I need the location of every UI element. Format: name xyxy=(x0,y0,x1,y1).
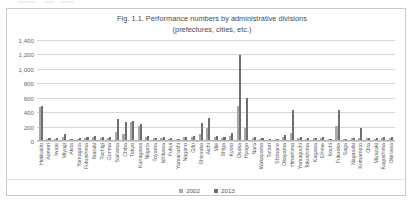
bar-group xyxy=(45,40,53,141)
plot-area: 1,4001,2001,0008006004002000 xyxy=(37,40,395,141)
bar-group xyxy=(250,40,258,141)
bar-group xyxy=(197,40,205,141)
bar xyxy=(201,123,203,141)
bar-group xyxy=(105,40,113,141)
chart-legend: 20022013 xyxy=(7,185,407,196)
legend-item[interactable]: 2002 xyxy=(179,187,200,194)
x-axis-tick-label: Kagawa xyxy=(312,143,318,162)
bar-group xyxy=(319,40,327,141)
x-axis-tick-label: Shimane xyxy=(274,143,280,164)
x-axis-tick-label: Ishikawa xyxy=(160,143,166,164)
bar xyxy=(41,106,43,141)
x-axis-tick-label: Tokushima xyxy=(304,143,310,168)
x-axis-tick-label: Kyoto xyxy=(228,143,234,157)
bar-group xyxy=(372,40,380,141)
bar-group xyxy=(90,40,98,141)
x-axis-tick-label: Oita xyxy=(365,143,371,153)
bar-group xyxy=(357,40,365,141)
x-axis-tick-label: Toyama xyxy=(152,143,158,162)
x-axis-tick-label: Osaka xyxy=(236,143,242,158)
chart-container: Fig. 1.1. Performance numbers by adminis… xyxy=(6,8,406,196)
legend-item[interactable]: 2013 xyxy=(214,187,235,194)
bar-group xyxy=(273,40,281,141)
bar xyxy=(292,110,294,141)
bar-group xyxy=(128,40,136,141)
x-axis-tick-label: Shizuoka xyxy=(198,143,204,165)
bar-group xyxy=(303,40,311,141)
bar-group xyxy=(136,40,144,141)
bar-group xyxy=(288,40,296,141)
y-axis-tick-label: 400 xyxy=(24,109,34,116)
bar-group xyxy=(189,40,197,141)
x-axis-tick-label: Miyagi xyxy=(61,143,67,158)
bar-group xyxy=(227,40,235,141)
y-axis-tick-label: 200 xyxy=(24,123,34,130)
bar-group xyxy=(204,40,212,141)
x-axis-tick-label: Tokyo xyxy=(129,143,135,157)
bar-group xyxy=(60,40,68,141)
x-axis-tick-label: Aomori xyxy=(45,143,51,160)
x-axis-tick-label: Ehime xyxy=(319,143,325,158)
x-axis-tick-label: Hokkaido xyxy=(38,143,44,165)
x-axis-tick-label: Gifu xyxy=(190,143,196,153)
x-axis-tick-label: Kumamoto xyxy=(357,143,363,169)
x-axis-tick-label: Kochi xyxy=(327,143,333,156)
x-axis-tick-label: Gunma xyxy=(106,143,112,160)
bar xyxy=(338,110,340,141)
legend-label: 2013 xyxy=(221,187,235,194)
x-axis-tick-label: Okinawa xyxy=(388,143,394,164)
x-axis-tick-label: Okayama xyxy=(281,143,287,166)
x-axis-tick-label: Nagano xyxy=(182,143,188,162)
bar-groups xyxy=(37,40,395,141)
y-axis-tick-label: 0 xyxy=(31,138,34,145)
bar-group xyxy=(212,40,220,141)
x-axis-tick-label: Saitama xyxy=(114,143,120,162)
x-axis-tick-label: Nara xyxy=(251,143,257,154)
y-axis-tick-label: 1,400 xyxy=(19,37,34,44)
bar-group xyxy=(326,40,334,141)
legend-divider xyxy=(7,179,407,180)
x-axis-tick-label: Aichi xyxy=(205,143,211,154)
legend-swatch-icon xyxy=(179,189,183,193)
bar-group xyxy=(265,40,273,141)
bar-group xyxy=(37,40,45,141)
bar-group xyxy=(98,40,106,141)
bar xyxy=(125,122,127,141)
x-axis-tick-label: Nagasaki xyxy=(350,143,356,165)
bar-group xyxy=(166,40,174,141)
x-axis-tick-label: Akita xyxy=(68,143,74,155)
chart-title: Fig. 1.1. Performance numbers by adminis… xyxy=(37,14,387,35)
bar-group xyxy=(235,40,243,141)
x-axis-tick-label: Kanagawa xyxy=(137,143,143,168)
bar-group xyxy=(182,40,190,141)
x-axis-tick-label: Yamagata xyxy=(76,143,82,167)
bar-group xyxy=(159,40,167,141)
legend-label: 2002 xyxy=(186,187,200,194)
bar-group xyxy=(334,40,342,141)
bar-group xyxy=(341,40,349,141)
x-axis-tick-label: Tochigi xyxy=(99,143,105,160)
bar-group xyxy=(52,40,60,141)
bar xyxy=(208,118,210,141)
bar-group xyxy=(174,40,182,141)
bar-group xyxy=(258,40,266,141)
bar-group xyxy=(151,40,159,141)
x-axis-tick-label: Niigata xyxy=(144,143,150,160)
legend-swatch-icon xyxy=(214,189,218,193)
y-axis-tick-label: 1,200 xyxy=(19,51,34,58)
bar-group xyxy=(75,40,83,141)
x-axis-tick-label: Iwate xyxy=(53,143,59,156)
y-axis-tick-label: 600 xyxy=(24,94,34,101)
x-axis-tick-label: Kagoshima xyxy=(380,143,386,170)
bar-group xyxy=(311,40,319,141)
x-axis-tick-label: Yamaguchi xyxy=(297,143,303,169)
x-axis-tick-label: Fukushima xyxy=(83,143,89,169)
x-axis-tick-label: Hyogo xyxy=(243,143,249,158)
bar xyxy=(246,98,248,141)
x-axis-tick-label: Saga xyxy=(342,143,348,155)
bar-group xyxy=(296,40,304,141)
x-axis-line xyxy=(37,140,395,141)
bar-group xyxy=(281,40,289,141)
x-axis-tick-label: Shiga xyxy=(220,143,226,157)
x-axis-tick-label: Hiroshima xyxy=(289,143,295,167)
